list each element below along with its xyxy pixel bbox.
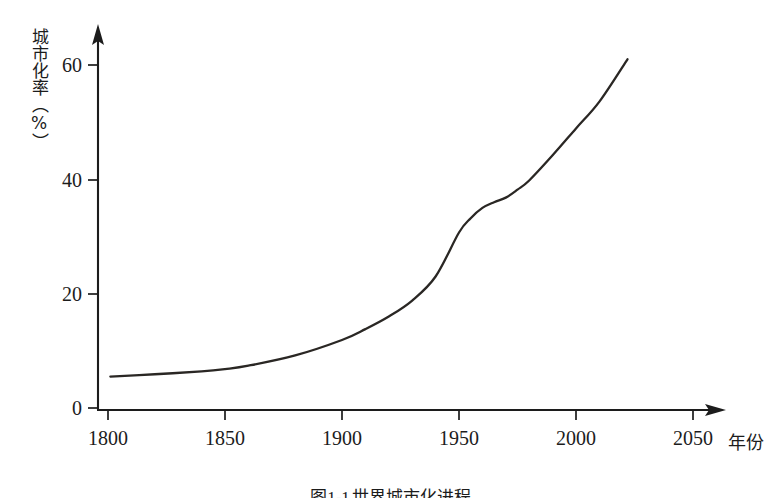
- urbanization-rate-curve: [110, 59, 627, 376]
- y-axis-group: 0 20 40 60: [62, 24, 104, 419]
- figure-root: 城市化率（%） 0 20 40 60: [0, 0, 781, 498]
- x-axis-group: 1800 1850 1900 1950 2000 2050: [88, 404, 726, 449]
- y-tick-label-0: 0: [72, 397, 82, 419]
- figure-caption: 图1-1世界城市化进程: [0, 483, 781, 498]
- x-tick-label-1850: 1850: [205, 427, 245, 449]
- x-axis-title: 年份: [728, 428, 764, 454]
- figure-caption-text: 世界城市化进程: [352, 487, 471, 498]
- y-tick-label-20: 20: [62, 283, 82, 305]
- x-tick-label-2050: 2050: [673, 427, 713, 449]
- y-axis-ticks: [88, 65, 98, 408]
- x-tick-label-1900: 1900: [322, 427, 362, 449]
- figure-caption-number: 图1-1: [310, 488, 350, 498]
- x-tick-label-1950: 1950: [439, 427, 479, 449]
- x-tick-label-2000: 2000: [556, 427, 596, 449]
- y-tick-label-60: 60: [62, 54, 82, 76]
- x-tick-label-1800: 1800: [88, 427, 128, 449]
- y-tick-label-40: 40: [62, 169, 82, 191]
- x-axis-ticks: [108, 410, 693, 420]
- chart-canvas: 0 20 40 60 1800 1850 1900 1950 2000 2050: [0, 0, 781, 498]
